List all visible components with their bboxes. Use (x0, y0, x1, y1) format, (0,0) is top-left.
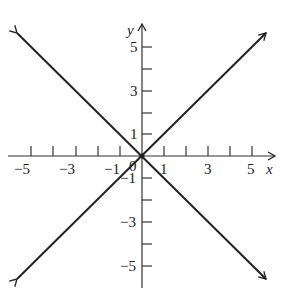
x-tick-label: 5 (247, 161, 255, 177)
x-tick-label: −1 (104, 161, 120, 177)
origin-point (140, 154, 145, 159)
y-tick-label: −5 (120, 258, 136, 274)
y-axis-label: y (125, 22, 134, 38)
y-tick-label: 1 (130, 126, 138, 142)
y-tick-label: 3 (130, 83, 138, 99)
x-tick-label: −3 (59, 161, 75, 177)
x-tick-label: 3 (204, 161, 212, 177)
x-tick-label: −5 (14, 161, 30, 177)
coordinate-plane: −5 −3 −1 0 1 3 5 x y 5 3 1 −1 −3 −5 (0, 0, 291, 298)
x-tick-label: 1 (160, 161, 168, 177)
x-axis-label: x (265, 161, 273, 177)
y-tick-label: −3 (120, 214, 136, 230)
y-tick-label: −1 (120, 170, 136, 186)
y-tick-label: 5 (130, 39, 138, 55)
